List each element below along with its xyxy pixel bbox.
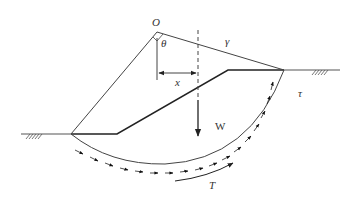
slope-stability-diagram: O θ γ x W τ T — [0, 0, 354, 197]
ground-hatch-left-icon — [26, 134, 42, 139]
label-T: T — [209, 179, 216, 191]
label-tau: τ — [298, 87, 303, 99]
shear-stress-arrows — [75, 82, 273, 173]
label-center-O: O — [152, 16, 160, 28]
shear-force-arrow — [175, 163, 233, 181]
label-W: W — [215, 120, 226, 132]
label-theta: θ — [161, 37, 167, 49]
radius-line-right — [157, 32, 284, 70]
ground-hatch-right-icon — [312, 70, 328, 75]
label-gamma: γ — [225, 35, 230, 47]
label-x: x — [174, 76, 180, 88]
